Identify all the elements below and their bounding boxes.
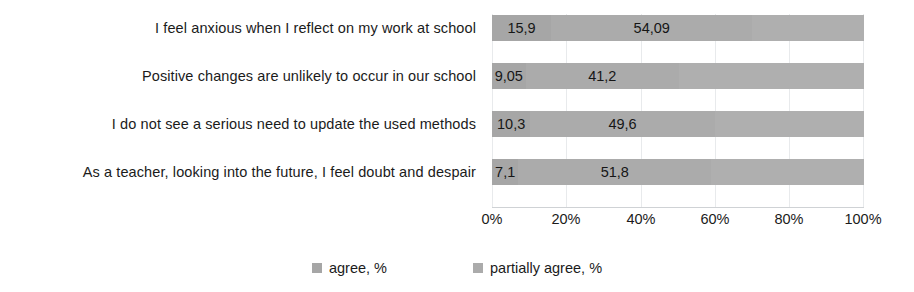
legend-swatch-icon-partially-agree: [473, 263, 483, 273]
x-tick-60: 60%: [700, 211, 729, 227]
bar-value-label-partially-agree-1: 41,2: [588, 63, 616, 89]
bar-value-label-agree-3: 7,1: [495, 159, 515, 185]
bar-value-label-agree-2: 10,3: [497, 111, 525, 137]
bar-row-0[interactable]: 15,954,09: [492, 15, 864, 41]
category-label-1: Positive changes are unlikely to occur i…: [142, 66, 476, 86]
bar-segment-remainder-3: [711, 159, 864, 185]
category-axis-labels: I feel anxious when I reflect on my work…: [0, 14, 484, 208]
x-tick-40: 40%: [626, 211, 655, 227]
x-axis: 0% 20% 40% 60% 80% 100%: [492, 211, 864, 233]
bar-value-label-partially-agree-0: 54,09: [634, 15, 670, 41]
stacked-bar-chart: I feel anxious when I reflect on my work…: [0, 0, 914, 292]
bar-segment-remainder-1: [679, 63, 864, 89]
bar-segment-remainder-2: [715, 111, 864, 137]
legend-item-partially-agree[interactable]: partially agree, %: [473, 260, 602, 276]
bar-value-label-agree-1: 9,05: [495, 63, 523, 89]
legend-swatch-icon-agree: [312, 263, 322, 273]
legend-label-partially-agree: partially agree, %: [490, 260, 602, 276]
x-tick-80: 80%: [774, 211, 803, 227]
bar-row-1[interactable]: 9,0541,2: [492, 63, 864, 89]
x-tick-100: 100%: [844, 211, 881, 227]
category-label-2: I do not see a serious need to update th…: [112, 114, 476, 134]
axis-baseline: [492, 207, 864, 208]
plot-area: 15,954,09 9,0541,2 10,349,6 7,151,8: [492, 14, 864, 208]
bar-value-label-partially-agree-2: 49,6: [608, 111, 636, 137]
bar-row-2[interactable]: 10,349,6: [492, 111, 864, 137]
bar-value-label-partially-agree-3: 51,8: [601, 159, 629, 185]
bar-value-label-agree-0: 15,9: [507, 15, 535, 41]
category-label-3: As a teacher, looking into the future, I…: [83, 162, 476, 182]
x-tick-20: 20%: [551, 211, 580, 227]
bar-row-3[interactable]: 7,151,8: [492, 159, 864, 185]
x-tick-0: 0%: [482, 211, 503, 227]
bar-segment-remainder-0: [752, 15, 864, 41]
category-label-0: I feel anxious when I reflect on my work…: [155, 18, 476, 38]
legend-item-agree[interactable]: agree, %: [312, 260, 387, 276]
legend-label-agree: agree, %: [329, 260, 387, 276]
chart-legend: agree, % partially agree, %: [0, 256, 914, 280]
